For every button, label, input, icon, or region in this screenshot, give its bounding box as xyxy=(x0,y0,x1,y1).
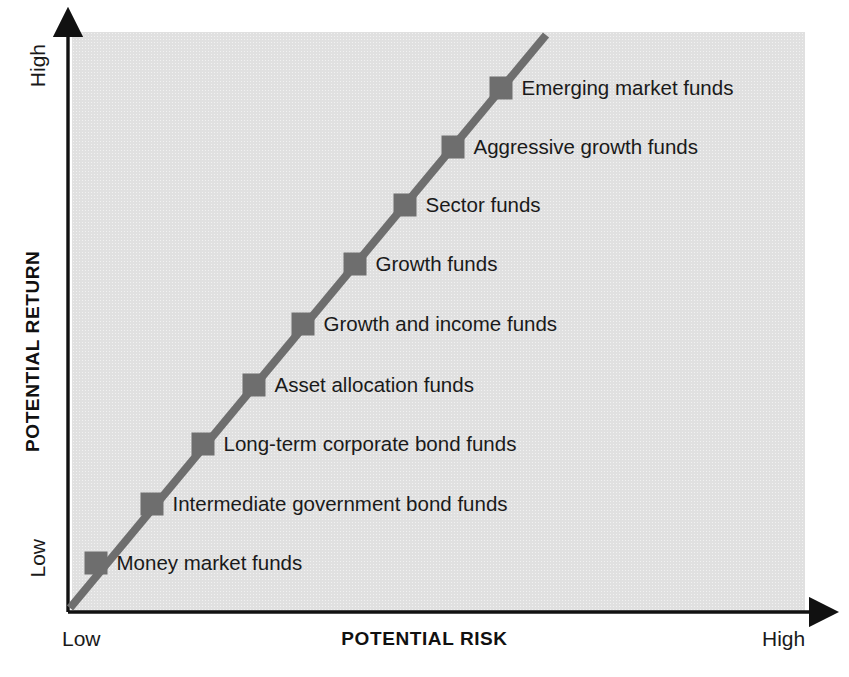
data-point-marker[interactable] xyxy=(141,493,164,516)
data-point-label: Long-term corporate bond funds xyxy=(224,434,517,455)
risk-return-chart: High Low Low High POTENTIAL RETURN POTEN… xyxy=(0,0,849,677)
y-axis-title: POTENTIAL RETURN xyxy=(23,251,42,452)
y-axis-tick-low: Low xyxy=(27,539,48,578)
data-point-label: Money market funds xyxy=(117,553,303,574)
data-point-marker[interactable] xyxy=(442,136,465,159)
data-point-marker[interactable] xyxy=(192,433,215,456)
data-point-label: Growth funds xyxy=(376,254,498,275)
data-point-label: Sector funds xyxy=(426,195,541,216)
data-point-label: Aggressive growth funds xyxy=(474,137,698,158)
data-point-marker[interactable] xyxy=(243,374,266,397)
data-point-label: Emerging market funds xyxy=(522,78,734,99)
y-axis-tick-high: High xyxy=(27,44,48,87)
data-point-marker[interactable] xyxy=(394,194,417,217)
data-point-marker[interactable] xyxy=(490,77,513,100)
x-axis-title: POTENTIAL RISK xyxy=(0,629,849,648)
data-point-label: Growth and income funds xyxy=(324,314,558,335)
data-point-marker[interactable] xyxy=(344,253,367,276)
series-layer xyxy=(0,0,849,677)
data-point-marker[interactable] xyxy=(292,313,315,336)
data-point-label: Asset allocation funds xyxy=(275,375,474,396)
data-point-label: Intermediate government bond funds xyxy=(173,494,508,515)
data-point-marker[interactable] xyxy=(85,552,108,575)
